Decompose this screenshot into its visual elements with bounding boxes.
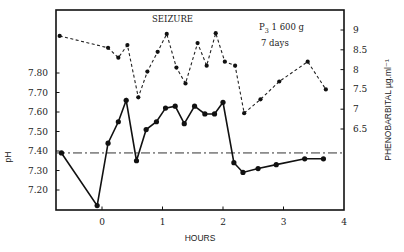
data-point xyxy=(174,66,178,70)
age-annotation: 7 days xyxy=(261,38,289,48)
data-point xyxy=(255,166,260,171)
data-point xyxy=(223,60,227,64)
y2-tick-label: 7 xyxy=(353,104,359,114)
data-point xyxy=(214,31,218,35)
seizure-annotation: SEIZURE xyxy=(152,14,193,24)
data-point xyxy=(233,64,237,68)
data-point xyxy=(212,111,217,116)
y-tick-label: 7.60 xyxy=(28,107,48,117)
data-point xyxy=(124,98,129,103)
data-point xyxy=(302,156,307,161)
data-point xyxy=(324,87,328,91)
y-axis-title: pH xyxy=(3,152,13,163)
y-tick-label: 7.30 xyxy=(28,166,48,176)
y-tick-label: 7.70 xyxy=(28,88,48,98)
data-point xyxy=(205,64,209,68)
data-point xyxy=(145,69,149,73)
y2-tick-label: 8.5 xyxy=(353,45,368,55)
data-point xyxy=(231,160,236,165)
data-point xyxy=(202,111,207,116)
x-axis-title: HOURS xyxy=(185,233,216,243)
y-tick-label: 7.20 xyxy=(28,185,48,195)
chart: 7.207.307.407.507.607.707.80 6.577.588.5… xyxy=(0,0,404,252)
data-point xyxy=(59,150,64,155)
subject-annotation: P3 1 600 g xyxy=(259,22,305,35)
y2-tick-label: 7.5 xyxy=(353,84,368,94)
y-tick-label: 7.80 xyxy=(28,68,48,78)
data-point xyxy=(321,156,326,161)
data-point xyxy=(58,34,62,38)
data-point xyxy=(116,56,120,60)
data-point xyxy=(306,60,310,64)
y-tick-label: 7.40 xyxy=(28,146,48,156)
data-point xyxy=(242,111,246,115)
data-point xyxy=(105,141,110,146)
data-point xyxy=(220,100,225,105)
data-point xyxy=(182,121,187,126)
left-axis-ticks: 7.207.307.407.507.607.707.80 xyxy=(28,68,60,195)
data-point xyxy=(192,104,197,109)
data-point xyxy=(277,79,281,83)
data-point xyxy=(125,43,129,47)
data-point xyxy=(106,46,110,50)
data-point xyxy=(95,203,100,208)
data-point xyxy=(240,170,245,175)
y2-tick-label: 8 xyxy=(353,65,359,75)
y2-tick-label: 9 xyxy=(353,25,359,35)
data-point xyxy=(165,32,169,36)
data-point xyxy=(195,41,199,45)
data-point xyxy=(144,127,149,132)
x-tick-label: 0 xyxy=(99,217,105,227)
data-point xyxy=(274,162,279,167)
data-point xyxy=(134,158,139,163)
data-point xyxy=(154,119,159,124)
data-point xyxy=(258,97,262,101)
y2-tick-label: 6.5 xyxy=(353,124,368,134)
data-point xyxy=(163,106,168,111)
y2-axis-title: PHENOBARBITAL µg.ml⁻¹ xyxy=(383,59,393,161)
x-tick-label: 1 xyxy=(160,217,166,227)
x-tick-label: 3 xyxy=(281,217,287,227)
data-point xyxy=(136,95,140,99)
y-tick-label: 7.50 xyxy=(28,127,48,137)
x-tick-label: 4 xyxy=(341,217,347,227)
x-tick-label: 2 xyxy=(220,217,226,227)
data-point xyxy=(156,50,160,54)
data-point xyxy=(173,104,178,109)
data-point xyxy=(183,81,187,85)
data-point xyxy=(116,119,121,124)
